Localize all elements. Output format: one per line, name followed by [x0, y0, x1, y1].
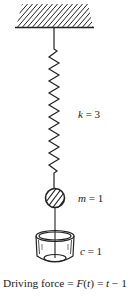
mass: [32, 182, 74, 218]
ceiling-support: [0, 0, 116, 30]
mass-label: m = 1: [78, 192, 103, 204]
damping-constant-label: c = 1: [80, 245, 102, 257]
spring: [49, 28, 59, 188]
spring-constant-label: k = 3: [78, 108, 101, 120]
driving-force-caption: Driving force = F(t) = t − 1: [3, 278, 127, 290]
spring-mass-damper-diagram: k = 3 m = 1 c = 1 Driving force = F(t) =…: [0, 0, 130, 307]
